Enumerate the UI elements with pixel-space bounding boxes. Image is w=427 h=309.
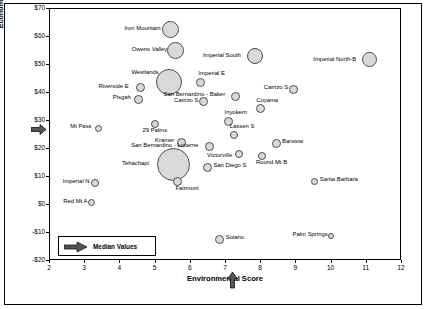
bubble-point (88, 199, 95, 206)
x-tick-mark (331, 260, 332, 263)
bubble-label: Imperial N (63, 178, 90, 184)
x-tick-mark (225, 260, 226, 263)
x-tick-mark (119, 260, 120, 263)
y-tick-label: $20 (19, 144, 45, 151)
bubble-point (167, 42, 184, 59)
x-tick-mark (49, 260, 50, 263)
x-tick-mark (190, 260, 191, 263)
median-arrow-icon (64, 242, 88, 252)
bubble-label: Solano (226, 234, 244, 240)
bubble-point (205, 142, 214, 151)
y-tick-mark (46, 148, 49, 149)
x-tick-mark (401, 260, 402, 263)
y-tick-mark (46, 232, 49, 233)
y-tick-label: -$20 (19, 256, 45, 263)
bubble-label: Lassen S (230, 123, 255, 129)
bubble-label: Carrizo S (264, 84, 289, 90)
bubble-label: Barstow (282, 138, 303, 144)
x-tick-label: 12 (394, 264, 408, 271)
bubble-point (196, 78, 205, 87)
x-tick-label: 6 (183, 264, 197, 271)
y-tick-mark (46, 36, 49, 37)
y-tick-label: $70 (19, 4, 45, 11)
x-tick-label: 8 (253, 264, 267, 271)
bubble-point (134, 95, 143, 104)
bubble-label: Westlands (131, 69, 158, 75)
x-tick-mark (155, 260, 156, 263)
y-tick-label: $40 (19, 88, 45, 95)
bubble-label: 29 Palms (143, 127, 168, 133)
x-axis-label: Environmental Score (49, 274, 401, 283)
bubble-point (289, 85, 298, 94)
bubble-label: Pisgah (113, 94, 131, 100)
y-tick-label: -$10 (19, 228, 45, 235)
y-tick-mark (46, 120, 49, 121)
y-tick-mark (46, 176, 49, 177)
x-tick-label: 9 (288, 264, 302, 271)
y-tick-label: $30 (19, 116, 45, 123)
x-tick-mark (366, 260, 367, 263)
bubble-point (231, 92, 240, 101)
chart-root: Economic Ranking Score ($/MWh) Environme… (0, 0, 427, 309)
median-x-arrow-icon (227, 272, 238, 289)
bubble-point (95, 125, 102, 132)
bubble-point (162, 21, 179, 38)
bubble-point (203, 163, 212, 172)
bubble-point (91, 179, 99, 187)
x-tick-label: 4 (112, 264, 126, 271)
bubble-label: Red Mt A (63, 198, 87, 204)
x-tick-label: 2 (42, 264, 56, 271)
bubble-point (235, 150, 243, 158)
bubble-label: Imperial South (203, 52, 241, 58)
y-tick-label: $60 (19, 32, 45, 39)
bubble-label: Mt Pass (70, 123, 91, 129)
bubble-label: San Bernardino - Lucerne (131, 142, 198, 148)
bubble-label: Inyokern (225, 109, 248, 115)
median-y-arrow-icon (31, 124, 47, 135)
bubble-label: Palm Springs (293, 231, 328, 237)
bubble-label: Tehachapi (122, 160, 149, 166)
bubble-label: Carrizo S (174, 97, 199, 103)
y-tick-mark (46, 92, 49, 93)
y-tick-label: $0 (19, 200, 45, 207)
y-tick-mark (46, 64, 49, 65)
x-tick-mark (295, 260, 296, 263)
bubble-label: San Diego S (213, 162, 246, 168)
x-tick-mark (260, 260, 261, 263)
legend-box: Median Values (58, 236, 156, 256)
x-tick-label: 7 (218, 264, 232, 271)
x-tick-label: 3 (77, 264, 91, 271)
bubble-label: Santa Barbara (320, 176, 358, 182)
bubble-point (247, 48, 263, 64)
plot-area (49, 8, 401, 260)
bubble-label: Imperial North-B (313, 56, 356, 62)
x-tick-label: 10 (324, 264, 338, 271)
bubble-label: Victorville (207, 152, 232, 158)
bubble-label: Round Mt B (256, 159, 287, 165)
bubble-label: Fairmont (175, 185, 198, 191)
y-tick-mark (46, 204, 49, 205)
bubble-label: Iron Mountain (124, 25, 160, 31)
y-axis-label: Economic Ranking Score ($/MWh) (0, 0, 5, 60)
x-tick-mark (84, 260, 85, 263)
legend-label: Median Values (93, 243, 137, 250)
bubble-point (256, 104, 265, 113)
bubble-label: Cuyama (256, 97, 278, 103)
bubble-point (215, 235, 224, 244)
y-tick-mark (46, 8, 49, 9)
x-tick-label: 5 (148, 264, 162, 271)
bubble-label: Riverside E (99, 83, 129, 89)
bubble-point (328, 233, 334, 239)
bubble-point (272, 139, 281, 148)
y-tick-label: $10 (19, 172, 45, 179)
x-tick-label: 11 (359, 264, 373, 271)
bubble-label: Imperial E (198, 70, 225, 76)
y-tick-label: $50 (19, 60, 45, 67)
bubble-label: Owens Valley (132, 46, 168, 52)
